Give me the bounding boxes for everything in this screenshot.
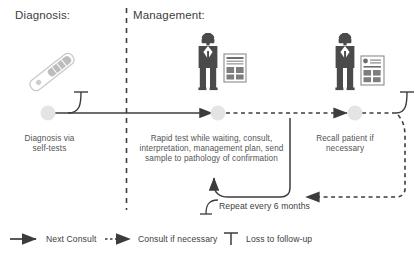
diagram-canvas [0,0,420,257]
loss-to-followup-branch-right [396,92,407,113]
self-test-kit-icon [28,51,76,92]
loss-to-followup-branch-left [68,92,81,113]
edge-recall-feedback [306,115,405,197]
node-recall-dot [348,106,363,121]
node-diagnosis-dot [41,106,56,121]
legend-label-consult-if-necessary: Consult if necessary [138,234,248,244]
annotation-repeat-loop: Repeat every 6 months [219,201,349,211]
care-pathway-diagram: Diagnosis: Management: Diagnosis via sel… [0,0,420,257]
doctor-with-report-icon-2 [335,33,384,90]
caption-recall: Recall patient if necessary [300,134,390,154]
node-first-consult-dot [211,106,226,121]
caption-first-consult: Rapid test while waiting, consult, inter… [131,134,292,164]
section-title-diagnosis: Diagnosis: [15,8,125,22]
legend-label-next-consult: Next Consult [46,234,126,244]
legend-label-loss-to-followup: Loss to follow-up [246,234,356,244]
section-title-management: Management: [133,8,273,22]
caption-diagnosis: Diagnosis via self-tests [2,134,97,154]
loss-to-followup-branch-loop [206,200,218,214]
doctor-with-report-icon-1 [198,33,246,90]
